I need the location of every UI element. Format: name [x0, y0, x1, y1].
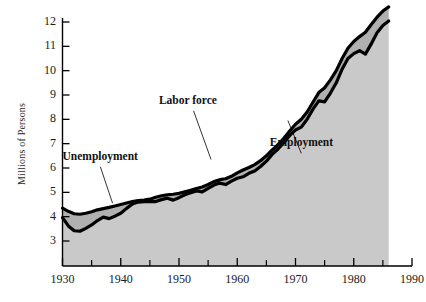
- y-tick-label-8: 8: [22, 111, 56, 126]
- y-tick-label-7: 7: [22, 136, 56, 151]
- x-tick-label-1930: 1930: [38, 272, 88, 287]
- series-label-labor-force: Labor force: [159, 94, 217, 106]
- series-label-employment: Employment: [270, 136, 333, 148]
- y-tick-label-9: 9: [22, 87, 56, 102]
- x-tick-label-1980: 1980: [329, 272, 379, 287]
- y-tick-label-5: 5: [22, 184, 56, 199]
- x-tick-label-1990: 1990: [387, 272, 426, 287]
- x-tick-label-1970: 1970: [271, 272, 321, 287]
- series-label-unemployment: Unemployment: [63, 150, 138, 162]
- y-tick-label-6: 6: [22, 160, 56, 175]
- x-tick-label-1950: 1950: [154, 272, 204, 287]
- y-tick-label-4: 4: [22, 209, 56, 224]
- y-tick-label-12: 12: [22, 14, 56, 29]
- y-axis-title: Millions of Persons: [16, 103, 27, 185]
- y-tick-label-11: 11: [22, 38, 56, 53]
- y-tick-label-3: 3: [22, 233, 56, 248]
- x-tick-label-1940: 1940: [96, 272, 146, 287]
- x-tick-label-1960: 1960: [212, 272, 262, 287]
- y-tick-label-10: 10: [22, 63, 56, 78]
